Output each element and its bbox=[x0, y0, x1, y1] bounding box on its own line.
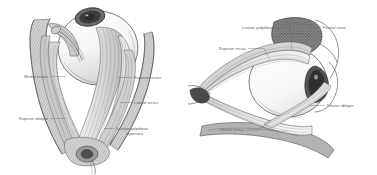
label-lateral-rectus: Lateral rectus bbox=[134, 100, 158, 105]
anterior-view-drawing: Medial rectus Superior oblique Superior … bbox=[0, 0, 188, 175]
lateral-view-drawing: Levator palpebrae Frontal sinus Superior… bbox=[188, 0, 377, 175]
label-levator-palpebrae-line2: superioris bbox=[126, 131, 143, 136]
label-levator-palpebrae-2: Levator palpebrae bbox=[242, 25, 274, 30]
orbital-apex-optic-nerve bbox=[64, 137, 109, 174]
label-inferior-rectus: Inferior rectus bbox=[219, 127, 244, 132]
panel-anterior-view: Medial rectus Superior oblique Superior … bbox=[0, 0, 188, 175]
label-frontal-sinus: Frontal sinus bbox=[323, 25, 346, 30]
label-superior-oblique: Superior oblique bbox=[19, 116, 48, 121]
label-inferior-oblique: Inferior oblique bbox=[327, 103, 354, 108]
label-superior-rectus-2: Superior rectus bbox=[219, 46, 246, 51]
label-medial-rectus: Medial rectus bbox=[24, 74, 48, 79]
panel-lateral-view: Levator palpebrae Frontal sinus Superior… bbox=[188, 0, 377, 175]
anatomical-figure: Medial rectus Superior oblique Superior … bbox=[0, 0, 377, 175]
label-superior-rectus: Superior rectus bbox=[134, 75, 161, 80]
